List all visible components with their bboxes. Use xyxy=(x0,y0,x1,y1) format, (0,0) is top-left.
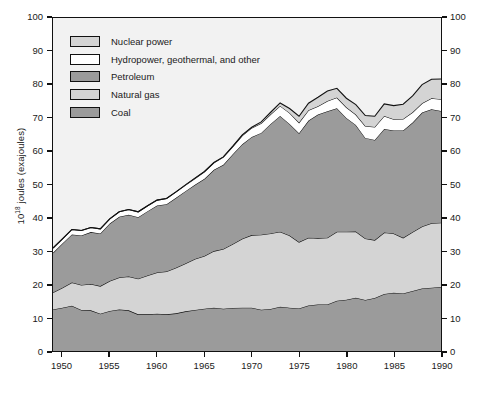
y-tick-mark-right xyxy=(442,351,447,352)
y-tick-mark-left xyxy=(47,83,52,84)
y-tick-label-right: 50 xyxy=(450,179,476,190)
x-tick-mark xyxy=(156,352,157,357)
y-tick-label-right: 90 xyxy=(450,45,476,56)
y-tick-mark-left xyxy=(47,251,52,252)
y-tick-label-right: 60 xyxy=(450,145,476,156)
y-tick-label-left: 80 xyxy=(19,78,43,89)
y-tick-mark-right xyxy=(442,117,447,118)
legend-item: Petroleum xyxy=(70,68,285,86)
y-tick-label-left: 100 xyxy=(19,11,43,22)
x-tick-mark xyxy=(346,352,347,357)
y-tick-mark-right xyxy=(442,16,447,17)
x-tick-label: 1965 xyxy=(184,360,224,371)
y-tick-label-left: 90 xyxy=(19,45,43,56)
y-tick-label-right: 20 xyxy=(450,279,476,290)
energy-consumption-chart-figure: 1018 joules (exajoules) Nuclear powerHyd… xyxy=(0,0,482,394)
y-tick-label-left: 60 xyxy=(19,145,43,156)
y-tick-label-right: 100 xyxy=(450,11,476,22)
legend-swatch-icon xyxy=(70,107,100,118)
y-tick-label-left: 50 xyxy=(19,179,43,190)
y-tick-mark-right xyxy=(442,50,447,51)
chart-legend: Nuclear powerHydropower, geothermal, and… xyxy=(70,33,285,121)
legend-label: Nuclear power xyxy=(111,36,172,47)
legend-item: Coal xyxy=(70,103,285,121)
y-tick-label-left: 40 xyxy=(19,212,43,223)
y-tick-label-left: 0 xyxy=(19,346,43,357)
y-tick-label-right: 80 xyxy=(450,78,476,89)
y-tick-mark-right xyxy=(442,318,447,319)
y-tick-mark-left xyxy=(47,150,52,151)
x-tick-label: 1950 xyxy=(42,360,82,371)
y-tick-label-left: 10 xyxy=(19,313,43,324)
x-tick-label: 1980 xyxy=(327,360,367,371)
legend-swatch-icon xyxy=(70,89,100,100)
y-tick-label-right: 10 xyxy=(450,313,476,324)
y-tick-mark-right xyxy=(442,150,447,151)
legend-swatch-icon xyxy=(70,71,100,82)
y-axis-title-text: 1018 joules (exajoules) xyxy=(14,128,26,225)
legend-item: Natural gas xyxy=(70,86,285,104)
x-tick-label: 1990 xyxy=(422,360,462,371)
y-tick-mark-right xyxy=(442,184,447,185)
x-tick-label: 1955 xyxy=(89,360,129,371)
legend-label: Hydropower, geothermal, and other xyxy=(111,54,260,65)
x-tick-label: 1960 xyxy=(137,360,177,371)
legend-swatch-icon xyxy=(70,54,100,65)
legend-item: Hydropower, geothermal, and other xyxy=(70,51,285,69)
x-tick-label: 1985 xyxy=(374,360,414,371)
y-tick-mark-left xyxy=(47,184,52,185)
legend-item: Nuclear power xyxy=(70,33,285,51)
y-tick-mark-right xyxy=(442,83,447,84)
legend-label: Coal xyxy=(111,107,131,118)
y-tick-mark-right xyxy=(442,217,447,218)
x-tick-label: 1975 xyxy=(279,360,319,371)
legend-label: Natural gas xyxy=(111,89,160,100)
x-tick-mark xyxy=(61,352,62,357)
y-tick-label-left: 30 xyxy=(19,246,43,257)
y-tick-mark-left xyxy=(47,217,52,218)
y-tick-mark-left xyxy=(47,351,52,352)
y-tick-label-right: 0 xyxy=(450,346,476,357)
x-tick-mark xyxy=(108,352,109,357)
y-tick-mark-right xyxy=(442,251,447,252)
y-tick-mark-left xyxy=(47,50,52,51)
x-tick-label: 1970 xyxy=(232,360,272,371)
y-tick-mark-left xyxy=(47,16,52,17)
y-tick-label-right: 70 xyxy=(450,112,476,123)
x-tick-mark xyxy=(204,352,205,357)
y-tick-label-left: 20 xyxy=(19,279,43,290)
x-tick-mark xyxy=(441,352,442,357)
y-tick-label-left: 70 xyxy=(19,112,43,123)
y-tick-mark-right xyxy=(442,284,447,285)
x-tick-mark xyxy=(394,352,395,357)
legend-swatch-icon xyxy=(70,36,100,47)
x-tick-mark xyxy=(251,352,252,357)
legend-label: Petroleum xyxy=(111,71,154,82)
y-tick-mark-left xyxy=(47,318,52,319)
y-tick-mark-left xyxy=(47,284,52,285)
y-tick-label-right: 30 xyxy=(450,246,476,257)
y-tick-label-right: 40 xyxy=(450,212,476,223)
y-tick-mark-left xyxy=(47,117,52,118)
x-tick-mark xyxy=(299,352,300,357)
